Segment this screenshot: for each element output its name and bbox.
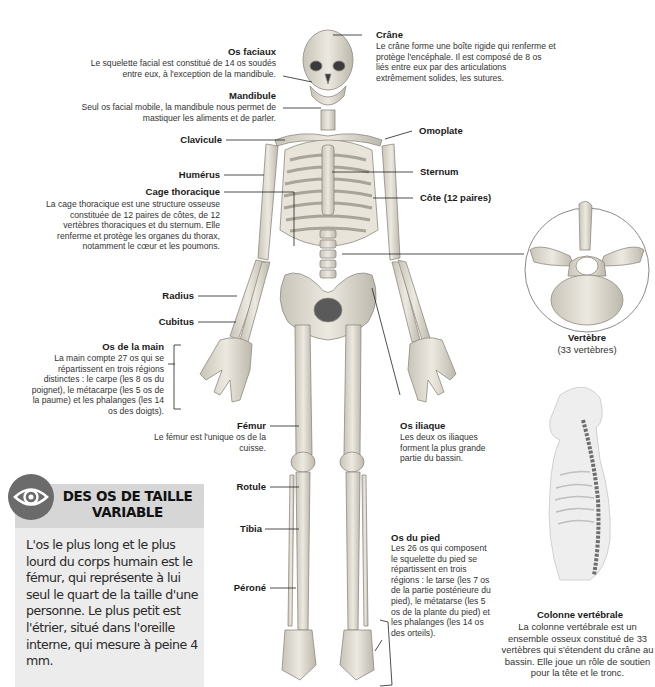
label-os-iliaque: Os iliaque: [400, 420, 445, 432]
label-cubitus: Cubitus: [120, 316, 194, 328]
info-box-title: DES OS DE TAILLE VARIABLE: [55, 488, 200, 520]
label-clavicule: Clavicule: [130, 134, 222, 146]
label-mandibule: Mandibule: [130, 90, 276, 102]
eye-icon: [8, 474, 54, 520]
label-radius: Radius: [120, 290, 194, 302]
label-sternum: Sternum: [420, 166, 459, 178]
label-os-main: Os de la main: [40, 341, 164, 353]
info-box-text: L'os le plus long et le plus lourd du co…: [26, 537, 202, 670]
label-cote: Côte (12 paires): [420, 192, 491, 204]
femur-description: Le fémur est l'unique os de la cuisse.: [146, 432, 266, 453]
os-pied-description: Les 26 os qui composent le squelette du …: [391, 543, 495, 638]
label-humerus: Humérus: [130, 169, 220, 181]
label-omoplate: Omoplate: [419, 125, 463, 137]
os-faciaux-description: Le squelette facial est constitué de 14 …: [72, 58, 276, 79]
label-femur: Fémur: [180, 420, 266, 432]
cage-thoracique-description: La cage thoracique est une structure oss…: [40, 199, 220, 252]
label-cage-thoracique: Cage thoracique: [100, 186, 220, 198]
label-os-faciaux: Os faciaux: [130, 46, 276, 58]
os-main-description: La main compte 27 os qui se répartissent…: [26, 353, 164, 417]
colonne-description: La colonne vertébrale est un ensemble os…: [500, 621, 655, 679]
os-iliaque-description: Les deux os iliaques forment la plus gra…: [400, 432, 500, 464]
crane-description: Le crâne forme une boîte rigide qui renf…: [376, 41, 556, 83]
label-crane: Crâne: [376, 29, 403, 41]
mandibule-description: Seul os facial mobile, la mandibule nous…: [60, 102, 276, 123]
label-colonne-vertebrale: Colonne vertébrale: [505, 609, 655, 621]
label-vertebre: Vertèbre: [527, 332, 647, 344]
vertebre-count: (33 vertèbres): [527, 345, 647, 356]
